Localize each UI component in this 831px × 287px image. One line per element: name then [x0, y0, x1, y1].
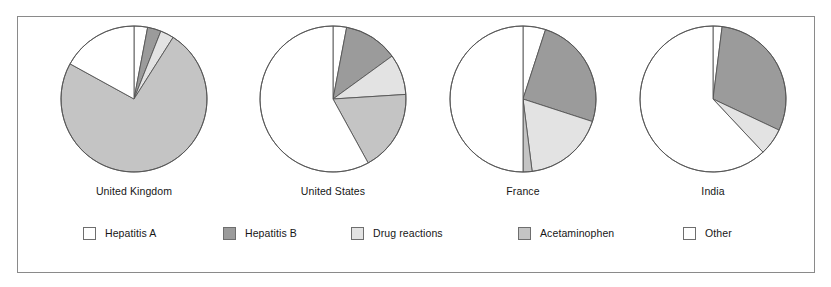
legend-label: Hepatitis B: [245, 227, 297, 239]
legend-item-drug-reactions[interactable]: Drug reactions: [351, 223, 443, 243]
legend-item-hepatitis-b[interactable]: Hepatitis B: [223, 223, 297, 243]
chart-legend: Hepatitis AHepatitis BDrug reactionsAcet…: [18, 223, 814, 253]
legend-swatch-hepatitis-a: [83, 227, 96, 240]
legend-label: Drug reactions: [373, 227, 443, 239]
pie-slice-other: [450, 26, 523, 172]
pie-chart-united-states: [257, 23, 409, 175]
country-label: United States: [238, 185, 428, 197]
pie-chart-france: [447, 23, 599, 175]
pie-chart-panel: India: [618, 17, 808, 213]
legend-label: Hepatitis A: [105, 227, 156, 239]
legend-swatch-hepatitis-b: [223, 227, 236, 240]
legend-label: Other: [705, 227, 732, 239]
legend-swatch-acetaminophen: [518, 227, 531, 240]
figure-frame: United KingdomUnited StatesFranceIndia H…: [17, 16, 815, 273]
legend-item-other[interactable]: Other: [683, 223, 732, 243]
legend-item-hepatitis-a[interactable]: Hepatitis A: [83, 223, 156, 243]
country-label: France: [428, 185, 618, 197]
legend-swatch-drug-reactions: [351, 227, 364, 240]
country-label: United Kingdom: [39, 185, 229, 197]
pie-chart-panel: France: [428, 17, 618, 213]
pie-chart-panel: United States: [238, 17, 428, 213]
country-label: India: [618, 185, 808, 197]
pie-charts-row: United KingdomUnited StatesFranceIndia: [18, 17, 814, 213]
legend-item-acetaminophen[interactable]: Acetaminophen: [518, 223, 614, 243]
pie-chart-india: [637, 23, 789, 175]
legend-label: Acetaminophen: [540, 227, 614, 239]
pie-chart-panel: United Kingdom: [39, 17, 229, 213]
pie-chart-united-kingdom: [58, 23, 210, 175]
legend-swatch-other: [683, 227, 696, 240]
